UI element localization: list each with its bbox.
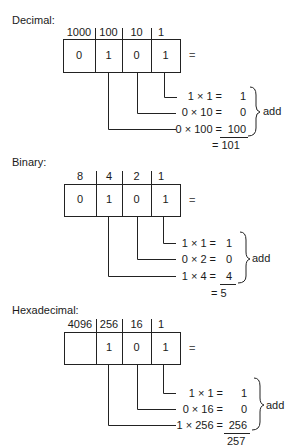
hexadecimal-digit: 1 — [151, 341, 180, 353]
hexadecimal-lines — [65, 319, 265, 434]
decimal-place-value: 1 — [151, 26, 171, 38]
hexadecimal-equals: = — [189, 342, 195, 354]
hexadecimal-place-value: 1 — [151, 318, 171, 330]
hexadecimal-total: 257 — [227, 435, 245, 447]
decimal-place-value: 10 — [122, 26, 151, 38]
hexadecimal-digit: 0 — [122, 341, 151, 353]
hexadecimal-product-lhs: 1 × 256 = — [160, 419, 223, 431]
binary-product-lhs: 0 × 2 = — [160, 253, 216, 265]
decimal-product-lhs: 1 × 1 = — [160, 90, 222, 102]
decimal-total: = 101 — [212, 139, 240, 151]
decimal-product-rhs: 1 — [224, 90, 246, 102]
decimal-digit: 1 — [95, 49, 122, 61]
binary-digit: 1 — [151, 193, 180, 205]
binary-add-label: add — [252, 252, 270, 264]
binary-digit: 0 — [122, 193, 151, 205]
binary-product-rhs: 0 — [218, 253, 232, 265]
decimal-equals: = — [189, 49, 195, 61]
hexadecimal-add-label: add — [266, 399, 284, 411]
hexadecimal-product-rhs: 1 — [225, 387, 247, 399]
binary-title: Binary: — [12, 156, 46, 168]
binary-place-value: 8 — [64, 170, 96, 182]
binary-product-rhs: 4 — [218, 270, 232, 282]
hexadecimal-product-rhs: 0 — [225, 403, 247, 415]
binary-digit: 0 — [64, 193, 96, 205]
binary-product-rhs: 1 — [218, 237, 232, 249]
decimal-product-rhs: 100 — [224, 123, 246, 135]
binary-equals: = — [189, 194, 195, 206]
decimal-add-label: add — [263, 105, 281, 117]
hexadecimal-place-value: 4096 — [64, 318, 96, 330]
binary-digit: 1 — [96, 193, 122, 205]
hexadecimal-digit: 1 — [96, 341, 122, 353]
hexadecimal-product-lhs: 0 × 16 = — [160, 403, 223, 415]
hexadecimal-place-value: 16 — [122, 318, 151, 330]
hexadecimal-place-value: 256 — [96, 318, 122, 330]
binary-place-value: 1 — [151, 170, 171, 182]
binary-product-lhs: 1 × 1 = — [160, 237, 216, 249]
binary-place-value: 4 — [96, 170, 122, 182]
decimal-digit: 0 — [63, 49, 95, 61]
decimal-digit: 1 — [151, 49, 180, 61]
decimal-digit: 0 — [122, 49, 151, 61]
hexadecimal-product-rhs: 256 — [225, 419, 247, 431]
decimal-product-rhs: 0 — [224, 106, 246, 118]
binary-lines — [65, 171, 251, 285]
binary-product-lhs: 1 × 4 = — [160, 270, 216, 282]
decimal-product-lhs: 0 × 10 = — [160, 106, 222, 118]
hexadecimal-product-lhs: 1 × 1 = — [160, 387, 223, 399]
hexadecimal-title: Hexadecimal: — [12, 304, 79, 316]
binary-total: = 5 — [211, 287, 227, 299]
decimal-product-lhs: 0 × 100 = — [160, 123, 222, 135]
decimal-title: Decimal: — [12, 14, 55, 26]
decimal-place-value: 100 — [95, 26, 122, 38]
decimal-lines — [64, 28, 261, 138]
binary-place-value: 2 — [122, 170, 151, 182]
decimal-place-value: 1000 — [63, 26, 95, 38]
